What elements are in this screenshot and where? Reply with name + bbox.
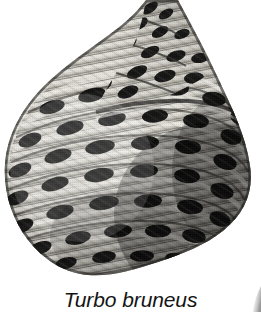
seashell-icon bbox=[0, 0, 261, 285]
figure-plate: Turbo bruneus bbox=[0, 0, 261, 312]
figure-caption: Turbo bruneus bbox=[0, 287, 261, 312]
